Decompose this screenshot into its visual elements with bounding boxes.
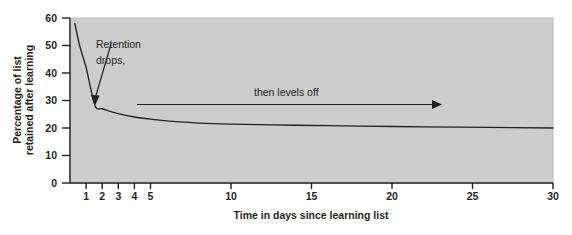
x-tick-label-25: 25 [467,190,479,202]
y-tick-label-60: 60 [45,12,57,24]
plot-area-background [70,18,553,183]
y-axis-title-line1: Percentage of list [11,56,23,144]
x-tick-label-15: 15 [306,190,318,202]
x-tick-label-20: 20 [386,190,398,202]
y-axis-title-line2: retained after learning [23,45,35,155]
retention-drops-line2: drops, [96,54,125,66]
y-tick-label-50: 50 [45,39,57,51]
then-levels-off-label: then levels off [254,86,319,98]
x-tick-label-10: 10 [225,190,237,202]
chart-svg: 0 10 20 30 40 50 60 1 2 3 4 5 [0,0,572,235]
x-tick-label-5: 5 [148,190,154,202]
y-tick-label-20: 20 [45,122,57,134]
x-tick-label-3: 3 [115,190,121,202]
retention-curve-figure: 0 10 20 30 40 50 60 1 2 3 4 5 [0,0,572,235]
y-tick-label-0: 0 [51,177,57,189]
y-tick-label-40: 40 [45,67,57,79]
x-tick-label-2: 2 [99,190,105,202]
x-tick-label-30: 30 [547,190,559,202]
y-tick-label-30: 30 [45,94,57,106]
retention-drops-line1: Retention [96,38,141,50]
y-axis-title: Percentage of list retained after learni… [11,45,35,155]
y-tick-label-10: 10 [45,149,57,161]
x-tick-label-1: 1 [83,190,89,202]
x-axis-title: Time in days since learning list [233,209,389,221]
x-tick-label-4: 4 [131,190,137,202]
